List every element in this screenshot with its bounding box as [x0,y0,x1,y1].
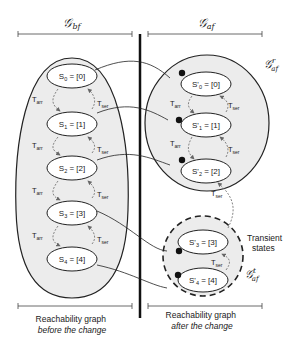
svg-text:S4 = [4]: S4 = [4] [59,255,85,265]
state-s4-prime: S'4 = [4] [178,268,228,292]
svg-text:S1 = [1]: S1 = [1] [59,120,85,130]
header-left-bracket [18,31,132,37]
state-s3: S3 = [3] [47,201,97,225]
header-right-bracket [148,31,262,37]
state-s4: S4 = [4] [47,247,97,271]
svg-text:S'3 = [3]: S'3 = [3] [189,238,217,248]
graph-after-label: 𝒢af [198,16,217,31]
state-s0-prime: S'0 = [0] [181,72,231,96]
svg-text:S'2 = [2]: S'2 = [2] [192,167,220,177]
caption-before: Reachability graph before the change [36,314,109,335]
svg-text:S0 = [0]: S0 = [0] [59,72,85,82]
reachability-diagram: 𝒢bf 𝒢af 𝒢raf 𝒢taf Transientstates S0 = [… [0,0,292,346]
svg-text:S3 = [3]: S3 = [3] [59,209,85,219]
state-s1-prime: S'1 = [1] [181,113,231,137]
state-s1: S1 = [1] [47,112,97,136]
svg-text:S'0 = [0]: S'0 = [0] [192,80,220,90]
footer-left-bracket [18,303,132,309]
state-s3-prime: S'3 = [3] [178,230,228,254]
transient-subgraph-label: 𝒢taf [245,267,260,283]
state-s0: S0 = [0] [47,64,97,88]
state-s2: S2 = [2] [47,156,97,180]
footer-right-bracket [148,303,262,309]
state-s2-prime: S'2 = [2] [181,159,231,183]
svg-text:S'4 = [4]: S'4 = [4] [189,276,217,286]
caption-after: Reachability graph after the change [166,310,239,331]
svg-text:S'1 = [1]: S'1 = [1] [192,121,220,131]
svg-text:S2 = [2]: S2 = [2] [59,164,85,174]
graph-before-label: 𝒢bf [63,16,82,31]
transient-states-label: Transientstates [247,233,283,253]
stable-subgraph-label: 𝒢raf [264,57,280,73]
